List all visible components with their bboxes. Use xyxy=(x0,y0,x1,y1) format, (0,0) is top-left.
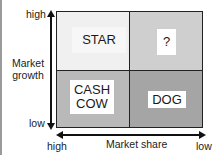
x-axis-title: Market share xyxy=(106,138,167,150)
quadrant-dog: DOG xyxy=(130,70,202,127)
quadrant-star: STAR xyxy=(57,12,130,70)
quadrant-label-dog: DOG xyxy=(148,91,186,108)
quadrant-label-cash-cow: CASH COW xyxy=(70,80,114,114)
x-axis-low-label: low xyxy=(196,140,212,152)
x-axis-high-label: high xyxy=(47,140,67,152)
y-axis-line xyxy=(50,15,52,124)
left-border xyxy=(0,0,2,155)
y-axis-low-label: low xyxy=(29,117,45,129)
quadrant-question-mark: ? xyxy=(130,12,202,70)
quadrant-label-star: STAR xyxy=(72,27,126,53)
quadrant-label-question-mark: ? xyxy=(157,29,176,55)
arrow-down-icon xyxy=(47,123,55,130)
x-axis-line xyxy=(62,134,200,136)
grid-divider-horizontal xyxy=(57,70,202,71)
quadrant-cash-cow: CASH COW xyxy=(57,70,130,127)
y-axis-high-label: high xyxy=(26,8,46,20)
y-axis-title: Market growth xyxy=(10,57,46,81)
matrix-grid: STAR ? CASH COW DOG xyxy=(56,11,203,128)
arrow-right-icon xyxy=(199,131,206,139)
